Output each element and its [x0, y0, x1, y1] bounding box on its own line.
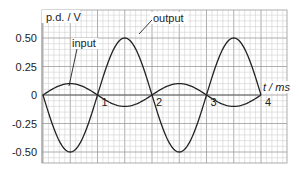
x-tick-label: 1: [102, 96, 108, 108]
y-tick-label: 0.50: [16, 32, 37, 44]
y-tick-label: -0.25: [12, 118, 37, 130]
output-annotation: output: [153, 12, 184, 24]
x-tick-label: 3: [211, 96, 217, 108]
input-annotation: input: [72, 37, 96, 49]
x-tick-label: 4: [265, 96, 271, 108]
x-axis-label: t / ms: [263, 81, 290, 93]
y-tick-labels: 0.500.250-0.25-0.50: [12, 32, 37, 158]
y-axis-label: p.d. / V: [46, 11, 82, 23]
chart: p.d. / V 0.500.250-0.25-0.50 1234 input …: [0, 0, 299, 170]
grid: [42, 10, 287, 163]
y-tick-label: -0.50: [12, 146, 37, 158]
x-tick-label: 2: [156, 96, 162, 108]
y-tick-label: 0.25: [16, 61, 37, 73]
y-tick-label: 0: [31, 89, 37, 101]
